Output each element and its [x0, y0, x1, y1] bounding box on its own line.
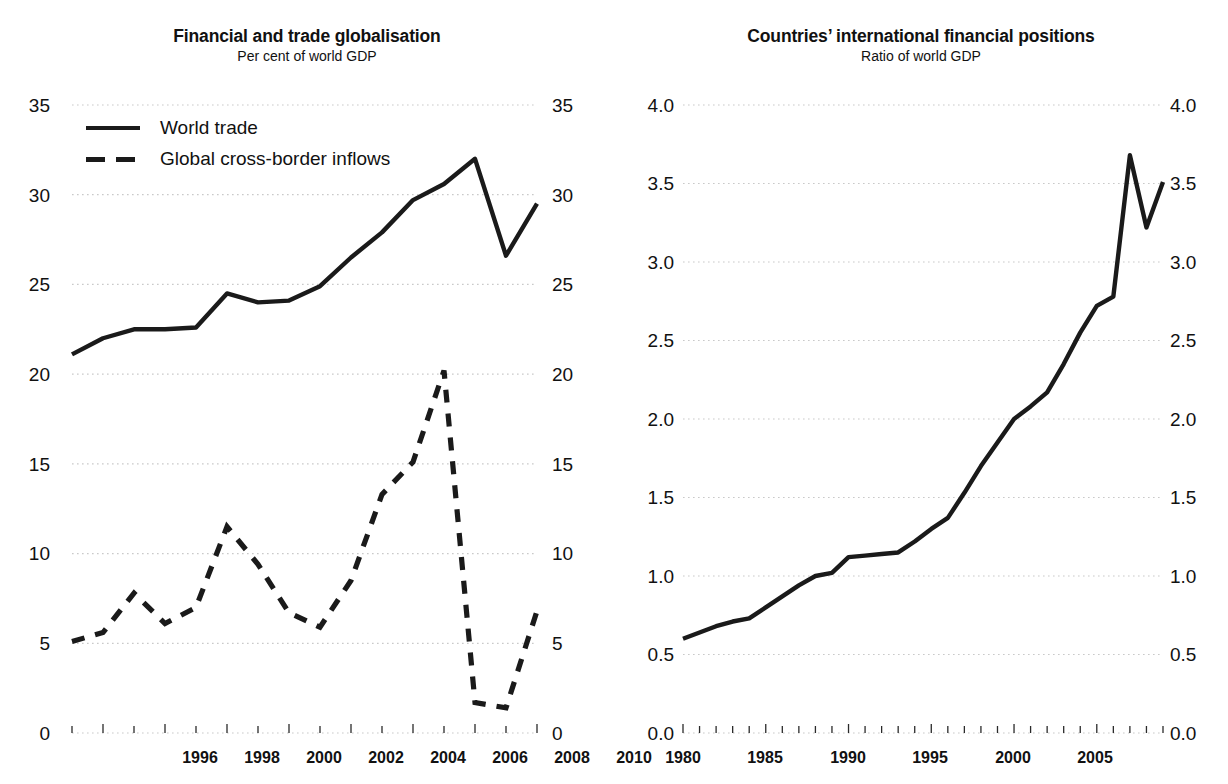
series-line-world-trade	[72, 159, 537, 355]
chart-panel-countries-international-financial-positions: Countries’ international financial posit…	[614, 0, 1228, 784]
chart-panel-financial-trade-globalisation: Financial and trade globalisation Per ce…	[0, 0, 614, 784]
chart-page: Financial and trade globalisation Per ce…	[0, 0, 1228, 784]
gridlines	[683, 105, 1163, 733]
series-line-global-cross-border-inflows	[72, 371, 537, 708]
plot-area-right	[614, 0, 1228, 784]
x-axis-ticks	[683, 724, 1163, 733]
series-line-international-financial-positions	[683, 155, 1163, 639]
x-axis-ticks	[72, 724, 537, 733]
plot-area-left	[0, 0, 614, 784]
